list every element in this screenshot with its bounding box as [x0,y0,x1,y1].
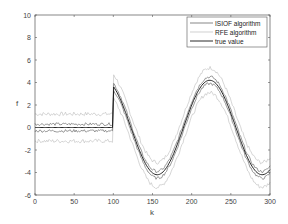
y-tick-label: 0 [27,124,31,131]
y-tick-label: -2 [25,147,31,154]
y-tick-label: -4 [25,169,31,176]
y-tick-label: 6 [27,57,31,64]
rfe-lower-line [35,91,270,189]
x-tick-label: 0 [33,198,37,205]
y-tick-label: -6 [25,192,31,199]
legend-rfe: RFE algorithm [215,29,257,37]
x-tick-label: 150 [147,198,159,205]
x-tick-label: 100 [107,198,119,205]
x-tick-label: 300 [264,198,276,205]
y-tick-label: 4 [27,79,31,86]
x-axis-label: k [150,208,155,217]
series-group [35,66,270,188]
isiof-lower-line [35,83,270,180]
legend-isiof: ISIOF algorithm [215,20,261,28]
legend: ISIOF algorithm RFE algorithm true value [187,17,267,47]
x-tick-label: 50 [70,198,78,205]
y-axis-label: f [16,99,19,108]
y-tick-label: 10 [23,12,31,19]
rfe-upper-line [35,66,270,164]
x-tick-label: 200 [186,198,198,205]
line-chart: 050100150200250300-6-4-20246810 f k ISIO… [0,0,288,224]
y-tick-label: 8 [27,34,31,41]
y-tick-label: 2 [27,102,31,109]
legend-true: true value [215,38,244,45]
x-tick-label: 250 [225,198,237,205]
